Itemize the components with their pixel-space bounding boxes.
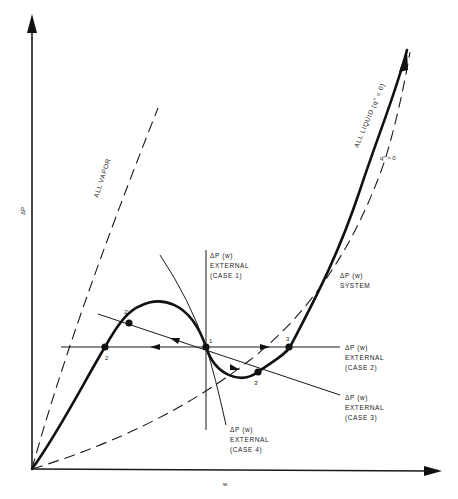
case1-label-line2: EXTERNAL bbox=[210, 262, 249, 269]
case3-label-line3: (CASE 3) bbox=[345, 414, 377, 422]
system-label-line2: SYSTEM bbox=[340, 282, 370, 289]
x-axis bbox=[32, 469, 432, 471]
operating-point-diagram: ΔP w ALL VAPOR ALL LIQUID (q" = 0) q" > … bbox=[0, 0, 458, 499]
case4-label-line1: ΔP (w) bbox=[230, 426, 253, 434]
all-vapor-curve bbox=[32, 108, 158, 469]
point-2 bbox=[101, 343, 108, 350]
case3-arrow-upper-icon bbox=[170, 338, 180, 344]
point-3-label: 3 bbox=[286, 336, 290, 342]
all-vapor-label: ALL VAPOR bbox=[92, 157, 111, 198]
case1-label-line1: ΔP (w) bbox=[210, 252, 233, 260]
point-1 bbox=[202, 343, 209, 350]
case2-label-line3: (CASE 2) bbox=[345, 364, 377, 372]
case1-label-line3: (CASE 1) bbox=[210, 272, 242, 280]
case4-label-line3: (CASE 4) bbox=[230, 446, 262, 454]
system-curve-arrow-icon bbox=[399, 50, 408, 72]
case2-label-line1: ΔP (w) bbox=[345, 344, 368, 352]
point-3 bbox=[285, 343, 292, 350]
y-axis-label: ΔP bbox=[20, 207, 26, 215]
system-label-line1: ΔP (w) bbox=[340, 272, 363, 280]
all-liquid-label: ALL LIQUID (q" = 0) bbox=[352, 82, 386, 149]
x-axis-label: w bbox=[222, 481, 228, 487]
point-1-label: 1 bbox=[209, 338, 213, 344]
case3-arrow-lower-icon bbox=[230, 364, 240, 370]
case2-arrow-left-icon bbox=[150, 344, 160, 350]
case3-label-line2: EXTERNAL bbox=[345, 404, 384, 411]
case3-label-line1: ΔP (w) bbox=[345, 394, 368, 402]
point-2-prime bbox=[125, 319, 132, 326]
y-axis-arrow-icon bbox=[27, 14, 37, 33]
point-2-label: 2 bbox=[105, 355, 109, 361]
case4-label-line2: EXTERNAL bbox=[230, 436, 269, 443]
point-3-prime-label: 3' bbox=[254, 380, 258, 386]
case2-arrow-right-icon bbox=[260, 344, 270, 350]
quality-label: q" > 0 bbox=[380, 155, 396, 161]
case2-label-line2: EXTERNAL bbox=[345, 354, 384, 361]
point-2-prime-label: 2' bbox=[124, 309, 128, 315]
point-3-prime bbox=[254, 368, 261, 375]
x-axis-arrow-icon bbox=[424, 466, 442, 476]
